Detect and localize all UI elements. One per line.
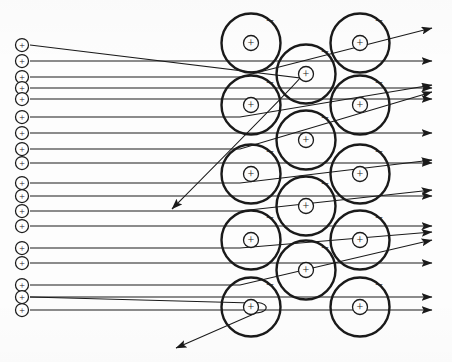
atom: +– [277,108,336,170]
nucleus-charge-label: + [357,36,364,50]
nucleus-charge-label: + [357,233,364,247]
incident-particle: + [16,257,29,270]
electron-charge-label: – [375,11,383,26]
incident-particle: + [16,242,29,255]
atom: +– [222,142,281,204]
positive-charge-label: + [19,40,25,51]
electron-charge-label: – [375,142,383,157]
incident-particle: + [16,143,29,156]
deflected-ray-group [30,28,432,348]
nucleus-charge-label: + [248,300,255,314]
electron-charge-label: – [375,73,383,88]
atom: +– [222,208,281,270]
atom: +– [331,73,390,135]
nucleus-charge-label: + [357,98,364,112]
atom: +– [277,42,336,104]
incident-particle: + [16,205,29,218]
positive-charge-label: + [19,144,25,155]
atom: +– [331,275,390,337]
ray-deflected-up-2 [30,85,432,117]
electron-charge-label: – [321,238,329,253]
nucleus-charge-label: + [248,36,255,50]
electron-charge-label: – [266,208,274,223]
incident-particle: + [16,291,29,304]
positive-charge-label: + [19,56,25,67]
electron-charge-label: – [266,11,274,26]
atom: +– [277,238,336,300]
incident-particle: + [16,157,29,170]
incident-particle: + [16,111,29,124]
nucleus-charge-label: + [248,233,255,247]
positive-charge-label: + [19,158,25,169]
nucleus-charge-label: + [248,167,255,181]
incident-particle: + [16,304,29,317]
electron-charge-label: – [266,73,274,88]
ray-backscattered [30,45,300,209]
undeflected-ray-group [30,61,432,310]
nucleus-charge-label: + [357,300,364,314]
ray-bottom-scatter [30,297,266,348]
positive-charge-label: + [19,94,25,105]
positive-charge-label: + [19,305,25,316]
incident-particle: + [16,55,29,68]
positive-charge-label: + [19,112,25,123]
incident-particle: + [16,127,29,140]
positive-charge-label: + [19,128,25,139]
electron-charge-label: – [375,208,383,223]
nucleus-charge-label: + [303,133,310,147]
electron-charge-label: – [266,142,274,157]
incident-particle: + [16,177,29,190]
electron-charge-label: – [266,275,274,290]
incident-particle: + [16,39,29,52]
positive-charge-label: + [19,206,25,217]
positive-charge-label: + [19,221,25,232]
incident-particle-group: ++++++++++++++++++ [16,39,29,317]
positive-charge-label: + [19,178,25,189]
electron-charge-label: – [375,275,383,290]
incident-particle: + [16,190,29,203]
incident-particle: + [16,220,29,233]
positive-charge-label: + [19,243,25,254]
diagram-canvas: +–+–+–+–+–+–+–+–+–+–+–+–+–+– +++++++++++… [0,0,452,362]
atom: +– [331,11,390,73]
atom: +– [331,142,390,204]
nucleus-charge-label: + [303,263,310,277]
nucleus-charge-label: + [248,98,255,112]
nucleus-charge-label: + [303,199,310,213]
nucleus-charge-label: + [357,167,364,181]
incident-particle: + [16,93,29,106]
incident-particle: + [16,279,29,292]
electron-charge-label: – [321,108,329,123]
ray-deflected-up-6 [30,232,432,248]
atom: +– [222,11,281,73]
positive-charge-label: + [19,191,25,202]
nucleus-charge-label: + [303,67,310,81]
positive-charge-label: + [19,292,25,303]
positive-charge-label: + [19,258,25,269]
atom: +– [331,208,390,270]
ray-deflected-up-3 [30,92,432,149]
atom: +– [222,73,281,135]
positive-charge-label: + [19,280,25,291]
rutherford-scattering-svg: +–+–+–+–+–+–+–+–+–+–+–+–+–+– +++++++++++… [0,0,452,362]
atom: +– [222,275,281,337]
electron-charge-label: – [321,174,329,189]
electron-charge-label: – [321,42,329,57]
